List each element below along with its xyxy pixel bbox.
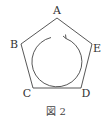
vertex-label-e: E — [93, 42, 101, 55]
vertex-label-c: C — [23, 87, 31, 100]
circular-arrow — [32, 38, 82, 87]
figure-caption: 図 2 — [46, 106, 66, 117]
vertex-label-b: B — [10, 38, 18, 51]
arrowhead-icon — [63, 35, 66, 39]
pentagon — [21, 18, 92, 88]
vertex-label-d: D — [82, 87, 91, 100]
vertex-label-a: A — [52, 4, 62, 17]
pentagon-diagram: A E D C B 図 2 — [0, 0, 110, 123]
